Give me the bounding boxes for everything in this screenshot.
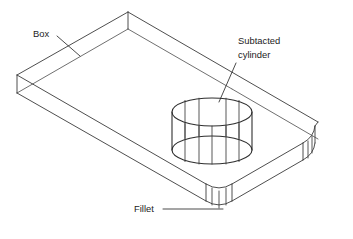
annotation-fillet: Fillet: [134, 203, 223, 214]
cylinder-label-line2: cylinder: [238, 49, 270, 60]
box-label: Box: [33, 28, 49, 39]
fillet-label: Fillet: [134, 203, 154, 214]
isometric-drawing-canvas: Box Subtacted cylinder Fillet: [0, 0, 353, 239]
cad-diagram-root: Box Subtacted cylinder Fillet: [0, 0, 353, 239]
cylinder-label-line1: Subtacted: [238, 35, 280, 46]
subtracted-cylinder: [172, 98, 252, 164]
